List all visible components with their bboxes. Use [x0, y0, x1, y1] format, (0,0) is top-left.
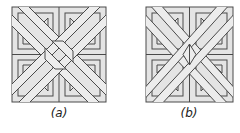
knot-pattern-b	[145, 6, 234, 103]
caption-b: (b)	[169, 106, 209, 120]
figure-a	[11, 6, 107, 103]
figure-b	[145, 6, 234, 103]
caption-a: (a)	[39, 106, 79, 120]
knot-pattern-a	[11, 6, 107, 103]
